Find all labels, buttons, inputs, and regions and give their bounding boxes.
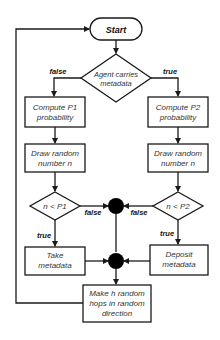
compute-p2-box [148, 97, 208, 127]
hops-line1: Make h random [89, 289, 145, 298]
compute-p1-box [25, 97, 85, 127]
draw-right-line2: number n [161, 159, 195, 168]
agent-true-label: true [163, 67, 177, 76]
take-line1: Take [46, 251, 64, 260]
p2-false-label: false [130, 208, 147, 217]
draw-left-line2: number n [38, 159, 72, 168]
n-less-p1-label: n < P1 [43, 202, 66, 211]
n-less-p2-label: n < P2 [166, 202, 190, 211]
hops-line2: hops in random [89, 299, 144, 308]
compute-p2-line1: Compute P2 [156, 103, 201, 112]
merge-junction-top [108, 198, 124, 214]
hops-line3: direction [102, 309, 133, 318]
agent-false-label: false [49, 67, 66, 76]
p1-false-label: false [84, 208, 101, 217]
flowchart: Start Agent carries metadata false true … [0, 0, 220, 340]
p1-true-label: true [37, 231, 51, 240]
compute-p1-line1: Compute P1 [33, 103, 77, 112]
start-label: Start [106, 25, 128, 35]
take-line2: metadata [38, 261, 72, 270]
draw-right-line1: Draw random [154, 149, 202, 158]
compute-p1-line2: probability [36, 113, 74, 122]
merge-junction-bottom [108, 253, 124, 269]
deposit-line1: Deposit [165, 250, 193, 259]
agent-decision-line2: metadata [100, 79, 131, 88]
agent-decision-line1: Agent carries [93, 70, 138, 79]
deposit-line2: metadata [162, 260, 196, 269]
draw-left-line1: Draw random [31, 149, 79, 158]
p2-true-label: true [160, 229, 174, 238]
compute-p2-line2: probability [159, 113, 197, 122]
